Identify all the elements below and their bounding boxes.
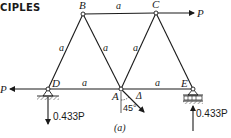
- node-label-A: A: [111, 90, 119, 102]
- member-label-DB: a: [59, 42, 64, 53]
- node-C: [154, 11, 158, 15]
- member-label-BA: a: [103, 42, 108, 53]
- node-D: [46, 87, 50, 91]
- angle-arc: [121, 97, 129, 100]
- member-AC: [121, 13, 156, 89]
- member-label-DA: a: [82, 77, 87, 88]
- reaction-label-E: 0.433P: [196, 108, 228, 119]
- member-BC: [83, 13, 156, 14]
- member-label-AC: a: [133, 42, 138, 53]
- truss-diagram: P P 0.433P 0.433P Δ 45° B C D A E: [0, 0, 231, 138]
- truss-nodes: [46, 11, 195, 91]
- member-BA: [83, 14, 121, 89]
- load-label-D: P: [0, 83, 7, 95]
- reaction-label-D: 0.433P: [53, 111, 85, 122]
- angle-label: 45°: [123, 103, 137, 113]
- member-label-AE: a: [155, 77, 160, 88]
- truss-members: [48, 13, 193, 89]
- node-A: [119, 87, 123, 91]
- node-B: [81, 12, 85, 16]
- figure-caption: (a): [114, 122, 126, 134]
- node-E: [191, 87, 195, 91]
- displacement-label: Δ: [135, 90, 142, 101]
- member-label-BC: a: [116, 0, 121, 11]
- node-label-C: C: [152, 0, 160, 10]
- load-label-C: P: [196, 7, 204, 19]
- node-label-D: D: [51, 77, 60, 89]
- node-label-E: E: [180, 77, 188, 89]
- node-label-B: B: [79, 0, 86, 11]
